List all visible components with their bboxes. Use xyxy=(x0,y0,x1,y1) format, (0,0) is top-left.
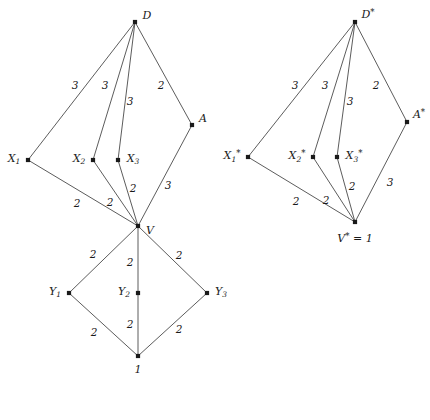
edge-Ds-X2s xyxy=(313,22,355,157)
edge-weight-V-Y3: 2 xyxy=(176,250,183,261)
edge-weight-X1s-Vs: 2 xyxy=(293,196,300,207)
edge-weight-X2s-Vs: 2 xyxy=(323,195,330,206)
edge-weight-X2-V: 2 xyxy=(107,197,114,208)
edge-D-A xyxy=(135,22,192,125)
edge-weight-X3s-Vs: 2 xyxy=(349,181,356,192)
edge-weight-As-Vs: 3 xyxy=(387,177,394,188)
node-label-Ds: D* xyxy=(361,8,374,21)
edge-weight-D-X2: 3 xyxy=(102,80,109,91)
node-dot-X1s xyxy=(246,155,250,159)
node-dot-ONE xyxy=(136,354,140,358)
node-label-A: A xyxy=(199,113,207,124)
edge-weight-X1-V: 2 xyxy=(74,198,81,209)
node-dot-D xyxy=(133,20,137,24)
edge-X1s-Vs xyxy=(248,157,355,222)
edge-D-X3 xyxy=(118,22,135,160)
node-dot-Vs xyxy=(353,220,357,224)
graph-svg-layer xyxy=(0,0,430,420)
edge-weight-Y2-ONE: 2 xyxy=(127,319,134,330)
edge-weight-D-A: 2 xyxy=(158,80,165,91)
edge-weight-Y1-ONE: 2 xyxy=(91,327,98,338)
edge-weight-V-Y2: 2 xyxy=(127,257,134,268)
node-label-X2s: X2* xyxy=(289,149,306,163)
edge-Ds-As xyxy=(355,22,407,122)
edge-Y3-ONE xyxy=(138,293,207,356)
node-label-X2: X2 xyxy=(73,153,86,166)
edge-D-X2 xyxy=(93,22,135,160)
node-dot-X3s xyxy=(335,155,339,159)
node-label-X1: X1 xyxy=(8,153,21,166)
edge-A-V xyxy=(138,125,192,226)
node-dot-X3 xyxy=(116,158,120,162)
edge-weight-V-Y1: 2 xyxy=(90,249,97,260)
edge-X1-V xyxy=(28,160,138,226)
node-label-X3s: X3* xyxy=(346,149,363,163)
edge-weight-Y3-ONE: 2 xyxy=(176,324,183,335)
node-label-X1s: X1* xyxy=(224,149,241,163)
node-label-Y2: Y2 xyxy=(118,286,130,299)
node-dot-V xyxy=(136,224,140,228)
node-dot-X2s xyxy=(311,155,315,159)
edge-weight-Ds-X1s: 3 xyxy=(292,80,299,91)
edge-weight-Ds-As: 2 xyxy=(373,80,380,91)
node-label-ONE: 1 xyxy=(135,364,142,375)
node-label-As: A* xyxy=(413,108,425,121)
edge-weight-A-V: 3 xyxy=(165,180,172,191)
node-dot-Ds xyxy=(353,20,357,24)
edge-weight-D-X3: 3 xyxy=(127,96,134,107)
edge-weight-D-X1: 3 xyxy=(72,80,79,91)
node-dot-A xyxy=(190,123,194,127)
node-label-Y1: Y1 xyxy=(49,286,61,299)
node-dot-X2 xyxy=(91,158,95,162)
edge-D-X1 xyxy=(28,22,135,160)
node-label-D: D xyxy=(143,10,152,21)
node-dot-As xyxy=(405,120,409,124)
node-dot-Y1 xyxy=(67,291,71,295)
node-dot-X1 xyxy=(26,158,30,162)
node-label-X3: X3 xyxy=(127,153,140,166)
diagram-canvas: 33322223222222DX1X2X3AVY1Y2Y3133322223D*… xyxy=(0,0,430,420)
edge-weight-Ds-X2s: 3 xyxy=(322,80,329,91)
edge-As-Vs xyxy=(355,122,407,222)
node-label-V: V xyxy=(146,225,154,236)
node-dot-Y3 xyxy=(205,291,209,295)
edge-weight-Ds-X3s: 3 xyxy=(347,96,354,107)
edge-Ds-X3s xyxy=(337,22,355,157)
node-dot-Y2 xyxy=(136,291,140,295)
node-label-Vs: V* = 1 xyxy=(337,232,372,245)
edge-weight-X3-V: 2 xyxy=(130,183,137,194)
node-label-Y3: Y3 xyxy=(215,286,227,299)
edge-Ds-X1s xyxy=(248,22,355,157)
